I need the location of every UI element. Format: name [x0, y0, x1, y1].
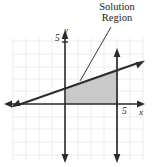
solution-region-annotation: Solution Region — [86, 1, 148, 24]
annotation-line-2: Region — [86, 12, 148, 23]
annotation-line-1: Solution — [86, 1, 148, 12]
y-axis-label: y — [64, 26, 68, 36]
vline-top-arrowhead — [114, 48, 121, 57]
x-axis-label: x — [139, 108, 143, 118]
solution-region-graph-figure: Solution Region y x 5 5 — [0, 0, 153, 167]
y-axis-bottom-arrowhead — [62, 154, 69, 163]
coordinate-plane-svg — [0, 0, 153, 167]
y-tick-label-5: 5 — [55, 33, 60, 43]
x-axis-left-arrowhead — [4, 101, 12, 108]
vline-bottom-arrowhead — [114, 154, 121, 163]
x-tick-label-5: 5 — [122, 106, 127, 116]
